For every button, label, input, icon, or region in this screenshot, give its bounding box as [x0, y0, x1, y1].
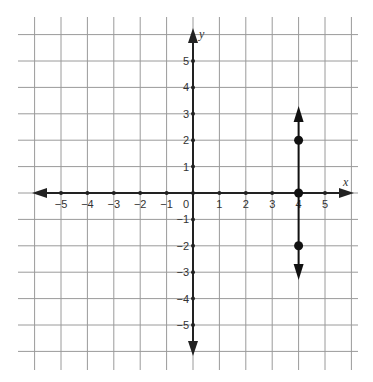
- x-tick-label: −1: [160, 198, 173, 210]
- x-tick-mark: [112, 191, 116, 195]
- x-tick-mark: [323, 191, 327, 195]
- x-tick-mark: [270, 191, 274, 195]
- y-tick-mark: [191, 217, 195, 221]
- y-tick-label: −5: [176, 319, 189, 331]
- coordinate-plane-svg: −5−4−3−2−101234554321−1−2−3−4−5xy: [0, 0, 373, 382]
- x-tick-label: 3: [269, 198, 275, 210]
- graph-point: [294, 241, 303, 250]
- y-tick-mark: [191, 112, 195, 116]
- coordinate-plane: −5−4−3−2−101234554321−1−2−3−4−5xy x y: [0, 0, 373, 382]
- y-tick-label: 3: [183, 108, 189, 120]
- x-tick-mark: [217, 191, 221, 195]
- x-axis-label: x: [342, 175, 349, 189]
- x-tick-mark: [85, 191, 89, 195]
- y-axis-down-arrow-icon: [188, 341, 198, 356]
- y-tick-label: 4: [183, 81, 189, 93]
- y-tick-label: 1: [183, 161, 189, 173]
- y-tick-mark: [191, 85, 195, 89]
- x-tick-label: −2: [134, 198, 147, 210]
- y-axis-up-arrow-icon: [188, 28, 198, 43]
- y-tick-mark: [191, 138, 195, 142]
- x-tick-mark: [59, 191, 63, 195]
- y-tick-label: −4: [176, 293, 189, 305]
- graph-point: [294, 136, 303, 145]
- y-tick-mark: [191, 270, 195, 274]
- y-tick-label: −1: [176, 213, 189, 225]
- x-tick-mark: [244, 191, 248, 195]
- y-tick-mark: [191, 297, 195, 301]
- x-tick-mark: [165, 191, 169, 195]
- x-tick-label: 1: [216, 198, 222, 210]
- y-tick-label: −3: [176, 266, 189, 278]
- x-tick-label: 0: [183, 198, 189, 210]
- x-tick-mark: [138, 191, 142, 195]
- y-tick-label: 5: [183, 55, 189, 67]
- y-tick-mark: [191, 165, 195, 169]
- x-tick-label: −5: [55, 198, 68, 210]
- x-tick-label: 5: [322, 198, 328, 210]
- y-axis-label: y: [198, 27, 205, 41]
- x-tick-label: −3: [108, 198, 121, 210]
- x-tick-label: 2: [243, 198, 249, 210]
- x-tick-mark: [191, 191, 195, 195]
- y-tick-label: −2: [176, 240, 189, 252]
- x-tick-label: −4: [81, 198, 94, 210]
- graph-point: [294, 189, 303, 198]
- y-tick-mark: [191, 323, 195, 327]
- y-tick-label: 2: [183, 134, 189, 146]
- y-tick-mark: [191, 59, 195, 63]
- y-tick-mark: [191, 244, 195, 248]
